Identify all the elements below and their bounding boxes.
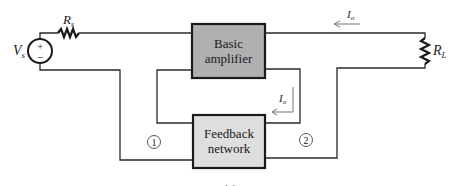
feedback-network-line2: network: [208, 141, 251, 156]
feedback-amplifier-diagram: + − Basic amplifier Feedback network Vs …: [0, 0, 460, 186]
output-current-label: Io: [346, 8, 355, 22]
load-resistor-rl: [421, 38, 429, 64]
source-resistor-rs: [58, 29, 79, 37]
port-1-label: 1: [152, 137, 157, 148]
wire-inner-left-loop: [157, 70, 193, 123]
rs-label: Rs: [62, 12, 74, 29]
source-minus: −: [37, 51, 43, 63]
output-current-arrow-icon: [334, 21, 360, 27]
basic-amplifier-line1: Basic: [214, 36, 243, 51]
wire-outer-right-loop: [265, 64, 425, 158]
wire-output-top: [265, 33, 425, 38]
wire-outer-left-loop: [40, 63, 193, 160]
basic-amplifier-line2: amplifier: [205, 51, 253, 66]
port-2-label: 2: [304, 135, 309, 146]
source-label: Vs: [13, 43, 26, 60]
rl-label: RL: [432, 43, 447, 60]
feedback-network-line1: Feedback: [204, 126, 254, 141]
figure-caption: (a): [224, 182, 237, 186]
feedback-current-label: Io: [278, 92, 287, 106]
wire-source-top: [40, 33, 58, 39]
